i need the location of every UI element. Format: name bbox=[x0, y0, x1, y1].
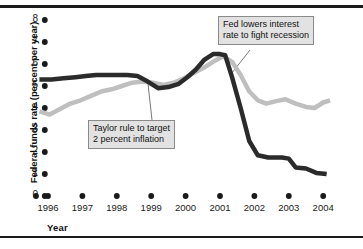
x-axis-tick-markers bbox=[33, 193, 326, 199]
x-tick-label: 1998 bbox=[100, 202, 134, 213]
y-tick-dot bbox=[42, 83, 48, 89]
y-tick-label: 0 bbox=[22, 189, 38, 200]
series-line bbox=[39, 56, 330, 114]
data-series-group bbox=[39, 54, 330, 174]
y-tick-dot bbox=[42, 39, 48, 45]
x-tick-label: 2003 bbox=[272, 202, 306, 213]
annotation-taylor-line-1: Taylor rule to target bbox=[93, 123, 170, 134]
y-tick-label: 1 bbox=[22, 167, 38, 178]
x-tick-label: 1996 bbox=[31, 202, 65, 213]
x-tick-dot bbox=[148, 193, 154, 199]
annotation-fed-line-1: Fed lowers interest bbox=[223, 19, 309, 30]
x-tick-label: 1999 bbox=[134, 202, 168, 213]
y-tick-label: 5 bbox=[22, 79, 38, 90]
x-tick-dot bbox=[183, 193, 189, 199]
y-tick-label: 4 bbox=[22, 101, 38, 112]
annotation-leader-line bbox=[148, 82, 152, 120]
y-tick-label: 8 bbox=[22, 13, 38, 24]
x-tick-label: 2000 bbox=[169, 202, 203, 213]
y-tick-dot bbox=[42, 127, 48, 133]
x-tick-dot bbox=[80, 193, 86, 199]
x-tick-dot bbox=[320, 193, 326, 199]
y-tick-dot bbox=[42, 17, 48, 23]
annotation-fed-lowers-rate: Fed lowers interest rate to fight recess… bbox=[218, 16, 314, 45]
x-tick-label: 1997 bbox=[65, 202, 99, 213]
annotation-taylor-rule: Taylor rule to target 2 percent inflatio… bbox=[88, 120, 175, 149]
y-tick-dot bbox=[42, 149, 48, 155]
x-tick-dot bbox=[252, 193, 258, 199]
x-tick-dot bbox=[45, 193, 51, 199]
series-line bbox=[39, 54, 326, 174]
x-tick-dot bbox=[114, 193, 120, 199]
y-tick-label: 2 bbox=[22, 145, 38, 156]
x-tick-label: 2001 bbox=[203, 202, 237, 213]
chart-figure: Federal funds rate (percent per year) Ye… bbox=[0, 0, 363, 249]
annotation-taylor-line-2: 2 percent inflation bbox=[93, 134, 170, 145]
x-tick-label: 2002 bbox=[237, 202, 271, 213]
y-tick-dot bbox=[42, 61, 48, 67]
y-tick-label: 6 bbox=[22, 57, 38, 68]
y-tick-label: 7 bbox=[22, 35, 38, 46]
annotation-fed-line-2: rate to fight recession bbox=[223, 30, 309, 41]
x-tick-label: 2004 bbox=[306, 202, 340, 213]
x-axis-title: Year bbox=[47, 222, 68, 233]
x-tick-dot bbox=[286, 193, 292, 199]
y-tick-dot bbox=[42, 171, 48, 177]
y-tick-label: 3 bbox=[22, 123, 38, 134]
y-axis-tick-markers bbox=[42, 17, 48, 199]
x-tick-dot bbox=[217, 193, 223, 199]
